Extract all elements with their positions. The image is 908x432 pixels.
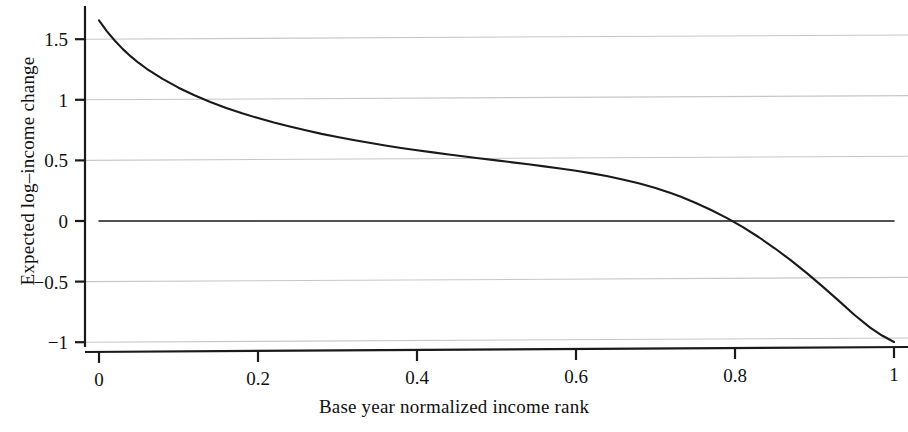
data-curve xyxy=(99,20,894,342)
x-tick-label: 0.4 xyxy=(405,368,429,387)
tick-marks-group xyxy=(75,39,894,363)
plot-canvas xyxy=(0,0,908,432)
axis-lines-group xyxy=(85,6,908,352)
x-tick-label: 1 xyxy=(889,365,899,384)
y-axis-title: Expected log–income change xyxy=(17,21,39,321)
data-series-group xyxy=(99,20,894,342)
gridline xyxy=(86,96,908,100)
x-tick-label: 0.2 xyxy=(246,369,270,388)
gridline xyxy=(86,277,908,281)
y-tick-label: −1 xyxy=(0,333,68,352)
chart-figure: 1.510.50−0.5−1 00.20.40.60.81 Expected l… xyxy=(0,0,908,432)
gridline xyxy=(86,338,908,342)
gridlines-group xyxy=(86,35,908,342)
x-axis-title: Base year normalized income rank xyxy=(0,396,908,418)
x-tick-label: 0.6 xyxy=(564,367,588,386)
x-tick-label: 0.8 xyxy=(723,366,747,385)
x-tick-label: 0 xyxy=(94,370,104,389)
gridline xyxy=(86,35,908,39)
x-axis-line xyxy=(85,347,908,352)
